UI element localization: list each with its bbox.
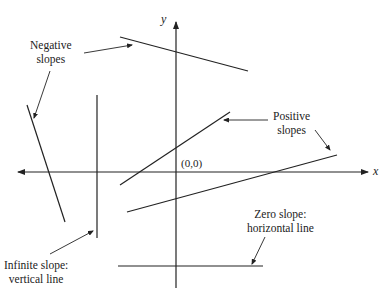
positive-slope-upper-line bbox=[120, 112, 230, 185]
zero-callout-arrow bbox=[252, 237, 265, 264]
zero-slope-label-line2: horizontal line bbox=[247, 221, 314, 235]
negative-callout-arrow-left bbox=[34, 71, 50, 118]
slope-diagram: y x (0,0) Negative slopes Positive slope… bbox=[0, 0, 391, 300]
y-axis-label: y bbox=[161, 12, 166, 27]
positive-callout-arrow-lower bbox=[315, 130, 330, 150]
x-axis-label: x bbox=[373, 164, 378, 179]
infinite-callout-arrow bbox=[50, 231, 93, 254]
zero-slope-label-line1: Zero slope: bbox=[247, 207, 314, 221]
positive-slopes-label: Positive slopes bbox=[273, 109, 310, 137]
infinite-slope-label: Infinite slope: vertical line bbox=[4, 258, 68, 286]
origin-label: (0,0) bbox=[181, 156, 202, 170]
negative-slope-top-line bbox=[120, 37, 248, 71]
infinite-slope-label-line2: vertical line bbox=[4, 272, 68, 286]
negative-callout-arrow-top bbox=[84, 45, 132, 53]
positive-slope-lower-line bbox=[127, 155, 337, 212]
zero-slope-label: Zero slope: horizontal line bbox=[247, 207, 314, 235]
negative-slopes-label-line2: slopes bbox=[30, 52, 72, 66]
infinite-slope-label-line1: Infinite slope: bbox=[4, 258, 68, 272]
positive-slopes-label-line1: Positive bbox=[273, 109, 310, 123]
positive-slopes-label-line2: slopes bbox=[273, 123, 310, 137]
negative-slope-left-line bbox=[27, 105, 65, 222]
negative-slopes-label-line1: Negative bbox=[30, 38, 72, 52]
negative-slopes-label: Negative slopes bbox=[30, 38, 72, 66]
